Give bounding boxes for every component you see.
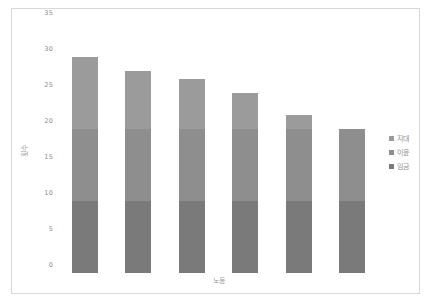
bar-segment[interactable] [72, 129, 98, 201]
legend-item[interactable]: 이윤 [389, 145, 427, 159]
legend-swatch-icon [389, 136, 394, 141]
bar-segment[interactable] [125, 71, 151, 129]
bar-segment[interactable] [286, 115, 312, 129]
bar-segment[interactable] [125, 129, 151, 201]
bar-segment[interactable] [339, 129, 365, 201]
bar-segment[interactable] [72, 57, 98, 129]
y-axis-tick-label: 20 [44, 117, 53, 125]
legend-item[interactable]: 지대 [389, 131, 427, 145]
y-axis-tick-label: 25 [44, 81, 53, 89]
bar-group[interactable] [286, 115, 312, 273]
bar-segment[interactable] [232, 201, 258, 273]
bar-segment[interactable] [179, 201, 205, 273]
bar-group[interactable] [179, 79, 205, 273]
bar-segment[interactable] [232, 129, 258, 201]
legend-item[interactable]: 임금 [389, 159, 427, 173]
legend-item-label: 지대 [397, 133, 409, 143]
chart-frame: 횟수 05101520253035 노동 지대이윤임금 [11, 8, 420, 294]
chart-legend: 지대이윤임금 [389, 131, 427, 173]
bar-segment[interactable] [286, 201, 312, 273]
bar-group[interactable] [339, 129, 365, 273]
bar-group[interactable] [232, 93, 258, 273]
bar-series-group [58, 21, 379, 273]
bar-segment[interactable] [232, 93, 258, 129]
y-axis-tick-label: 15 [44, 153, 53, 161]
y-axis-tick-label: 35 [44, 9, 53, 17]
legend-item-label: 임금 [397, 161, 409, 171]
legend-swatch-icon [389, 150, 394, 155]
bar-segment[interactable] [179, 79, 205, 129]
y-axis-tick-label: 5 [49, 225, 53, 233]
y-axis-tick-label: 0 [49, 261, 53, 269]
y-axis-tick-label: 30 [44, 45, 53, 53]
bar-segment[interactable] [339, 201, 365, 273]
legend-item-label: 이윤 [397, 147, 409, 157]
plot-area: 05101520253035 [58, 21, 379, 273]
y-axis-tick-label: 10 [44, 189, 53, 197]
bar-segment[interactable] [125, 201, 151, 273]
bar-segment[interactable] [286, 129, 312, 201]
bar-group[interactable] [72, 57, 98, 273]
bar-group[interactable] [125, 71, 151, 273]
legend-swatch-icon [389, 164, 394, 169]
bar-segment[interactable] [179, 129, 205, 201]
y-axis-title: 횟수 [19, 145, 29, 157]
x-axis-title: 노동 [58, 275, 379, 285]
bar-segment[interactable] [72, 201, 98, 273]
